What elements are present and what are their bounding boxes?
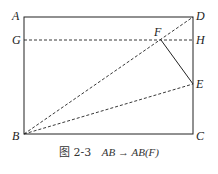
dashed-line-be [24,84,193,134]
segment-fe [161,40,193,84]
caption-math: AB → AB(F) [102,146,159,158]
point-label-d: D [196,10,205,22]
dashed-line-bd [24,17,193,134]
caption-prefix: 图 2-3 [59,146,91,159]
point-label-c: C [196,130,204,142]
point-label-b: B [12,130,19,142]
point-label-f: F [154,26,161,38]
point-label-e: E [196,78,203,90]
point-label-h: H [196,34,205,46]
figure-caption: 图 2-3 AB → AB(F) [0,143,218,159]
point-label-a: A [12,10,19,22]
point-label-g: G [12,34,21,46]
